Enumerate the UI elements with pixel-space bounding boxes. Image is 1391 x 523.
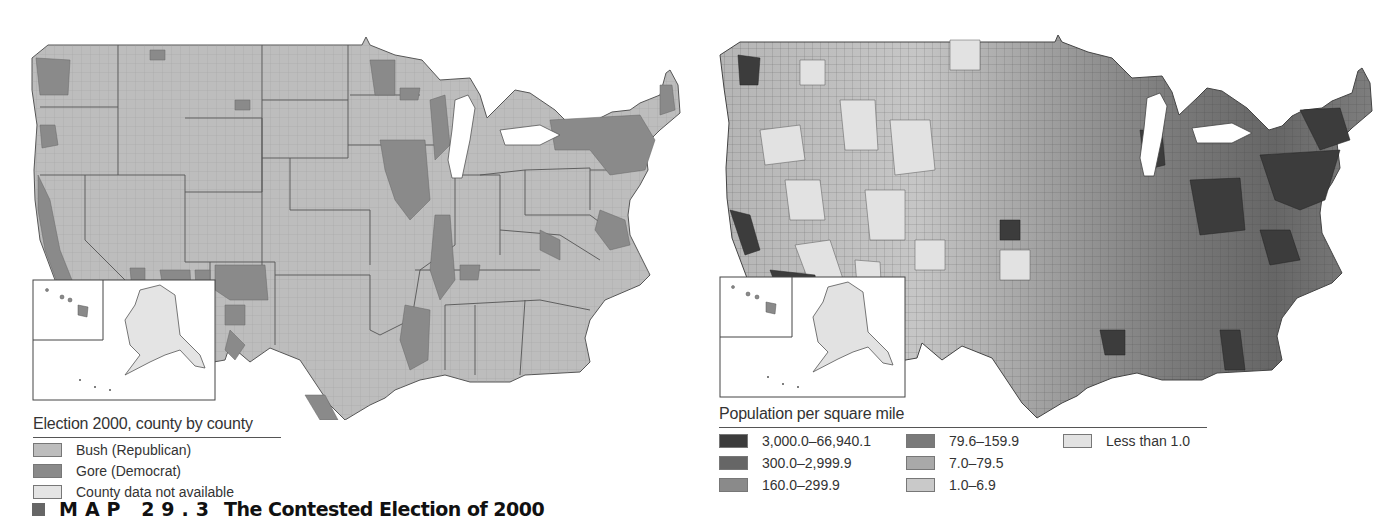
legend-swatch bbox=[719, 478, 748, 492]
legend-swatch bbox=[719, 434, 748, 448]
map-caption: MAP 29.3 The Contested Election of 2000 bbox=[32, 498, 544, 520]
legend-label: 7.0–79.5 bbox=[949, 455, 1004, 471]
legend-swatch bbox=[906, 434, 935, 448]
population-density-map bbox=[700, 0, 1391, 420]
population-map-panel: Population per square mile 3,000.0–66,94… bbox=[700, 0, 1391, 523]
legend-swatch bbox=[906, 456, 935, 470]
legend-item-density-3: 160.0–299.9 bbox=[719, 477, 840, 493]
election-county-map bbox=[0, 0, 700, 420]
election-legend-title: Election 2000, county by county bbox=[33, 415, 253, 433]
legend-item-gore: Gore (Democrat) bbox=[33, 463, 181, 479]
election-map-panel: Election 2000, county by county Bush (Re… bbox=[0, 0, 700, 523]
caption-title: The Contested Election of 2000 bbox=[224, 498, 544, 520]
legend-label: Bush (Republican) bbox=[76, 442, 191, 458]
legend-swatch bbox=[33, 485, 62, 499]
legend-divider bbox=[33, 437, 281, 438]
legend-label: 160.0–299.9 bbox=[762, 477, 840, 493]
legend-label: 3,000.0–66,940.1 bbox=[762, 433, 871, 449]
legend-item-density-2: 300.0–2,999.9 bbox=[719, 455, 852, 471]
legend-divider bbox=[719, 427, 1207, 428]
population-legend-title: Population per square mile bbox=[719, 405, 904, 423]
legend-label: Gore (Democrat) bbox=[76, 463, 181, 479]
legend-label: 1.0–6.9 bbox=[949, 477, 996, 493]
legend-swatch bbox=[1063, 434, 1092, 448]
legend-item-density-1: 3,000.0–66,940.1 bbox=[719, 433, 871, 449]
legend-swatch bbox=[719, 456, 748, 470]
legend-item-density-5: 7.0–79.5 bbox=[906, 455, 1004, 471]
legend-swatch bbox=[906, 478, 935, 492]
legend-item-density-6: 1.0–6.9 bbox=[906, 477, 996, 493]
legend-item-bush: Bush (Republican) bbox=[33, 442, 191, 458]
legend-item-density-7: Less than 1.0 bbox=[1063, 433, 1190, 449]
legend-swatch bbox=[33, 443, 62, 457]
legend-swatch bbox=[33, 464, 62, 478]
caption-square-icon bbox=[32, 503, 45, 516]
caption-map-number: MAP 29.3 bbox=[59, 498, 216, 520]
legend-item-density-4: 79.6–159.9 bbox=[906, 433, 1019, 449]
legend-label: 79.6–159.9 bbox=[949, 433, 1019, 449]
legend-label: 300.0–2,999.9 bbox=[762, 455, 852, 471]
legend-label: Less than 1.0 bbox=[1106, 433, 1190, 449]
